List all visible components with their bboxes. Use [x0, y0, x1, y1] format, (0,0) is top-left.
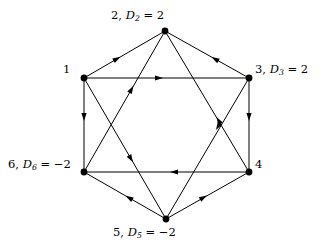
arrowhead-2-to-1 — [112, 55, 122, 63]
node-2-equals: = — [140, 8, 157, 22]
arrowhead-4-to-5 — [199, 193, 209, 201]
node-6-demand-value: −2 — [54, 157, 71, 171]
node-3-separator: , — [262, 62, 269, 76]
edge-2-to-3 — [165, 31, 249, 78]
arrowhead-4-to-3 — [246, 113, 251, 121]
edge-2-to-6 — [84, 31, 165, 172]
node-6-demand-symbol: D — [23, 157, 32, 171]
node-label-1: 1 — [63, 64, 70, 76]
arrowhead-2-to-6 — [127, 85, 135, 95]
arrowhead-3-to-1 — [155, 75, 163, 80]
edge-2-to-4 — [165, 31, 249, 172]
node-label-2: 2, D2 = 2 — [111, 10, 164, 22]
edge-5-to-3 — [166, 78, 249, 219]
arrowhead-6-to-5 — [124, 194, 134, 202]
outer-hexagon-edges — [81, 31, 251, 219]
node-3-demand-value: 2 — [301, 62, 308, 76]
node-4[interactable] — [246, 169, 253, 176]
node-2[interactable] — [162, 28, 169, 35]
graph-canvas — [0, 0, 323, 252]
directed-graph-figure: 1 2, D2 = 2 3, D3 = 2 4 5, D5 = −2 6, D6… — [0, 0, 323, 252]
node-1-index: 1 — [63, 62, 70, 76]
node-2-demand-value: 2 — [157, 8, 164, 22]
arrowhead-5-to-1 — [127, 154, 136, 164]
node-label-6: 6, D6 = −2 — [8, 159, 71, 171]
edge-6-to-5 — [84, 172, 166, 219]
node-5-separator: , — [120, 225, 127, 239]
arrowhead-6-to-4 — [170, 169, 178, 174]
node-2-demand-symbol: D — [126, 8, 135, 22]
edge-5-to-1 — [84, 78, 166, 219]
node-3-demand-symbol: D — [270, 62, 279, 76]
node-6-separator: , — [15, 157, 22, 171]
inner-star-edges — [84, 31, 249, 219]
node-2-separator: , — [118, 8, 125, 22]
node-6[interactable] — [81, 169, 88, 176]
node-5-demand-value: −2 — [159, 225, 176, 239]
arrowhead-2-to-3 — [210, 55, 220, 63]
node-5-equals: = — [142, 225, 159, 239]
node-5[interactable] — [163, 216, 170, 223]
node-6-equals: = — [37, 157, 54, 171]
edge-4-to-5 — [166, 172, 249, 219]
node-label-3: 3, D3 = 2 — [255, 64, 308, 76]
node-4-index: 4 — [255, 157, 262, 171]
edge-2-to-1 — [84, 31, 165, 78]
node-3-equals: = — [284, 62, 301, 76]
node-label-5: 5, D5 = −2 — [113, 227, 176, 239]
node-label-4: 4 — [255, 159, 262, 171]
graph-nodes — [81, 28, 253, 223]
node-1[interactable] — [81, 75, 88, 82]
arrowhead-6-to-1 — [81, 113, 86, 121]
node-5-demand-symbol: D — [128, 225, 137, 239]
node-3[interactable] — [246, 75, 253, 82]
